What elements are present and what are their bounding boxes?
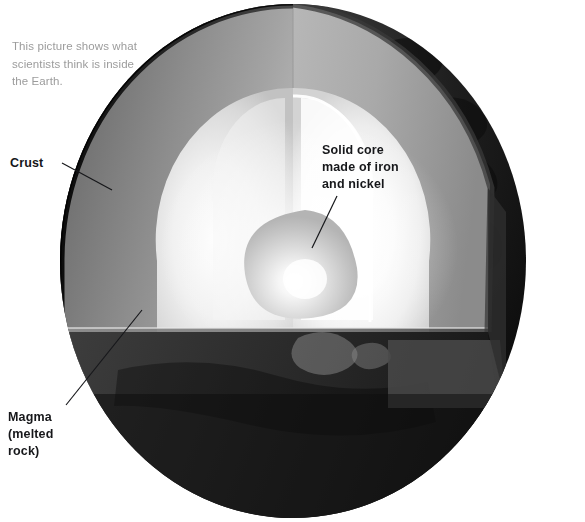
label-core-line-2: made of iron: [322, 159, 442, 176]
label-core-line-1: Solid core: [322, 142, 442, 159]
label-core-line-3: and nickel: [322, 176, 442, 193]
caption-line-1: This picture shows what: [12, 38, 152, 56]
caption-line-3: the Earth.: [12, 73, 152, 91]
figure-canvas: This picture shows what scientists think…: [0, 0, 585, 522]
label-crust-line-1: Crust: [10, 155, 43, 172]
label-magma-line-1: Magma: [8, 409, 88, 426]
intro-caption: This picture shows what scientists think…: [12, 38, 152, 91]
inner-core-highlight: [283, 259, 327, 299]
label-magma: Magma (melted rock): [8, 409, 88, 460]
label-magma-line-2: (melted: [8, 426, 88, 443]
label-solid-core: Solid core made of iron and nickel: [322, 142, 442, 193]
floor-shadow: [60, 394, 520, 520]
label-crust: Crust: [10, 155, 43, 172]
caption-line-2: scientists think is inside: [12, 56, 152, 74]
label-magma-line-3: rock): [8, 443, 88, 460]
